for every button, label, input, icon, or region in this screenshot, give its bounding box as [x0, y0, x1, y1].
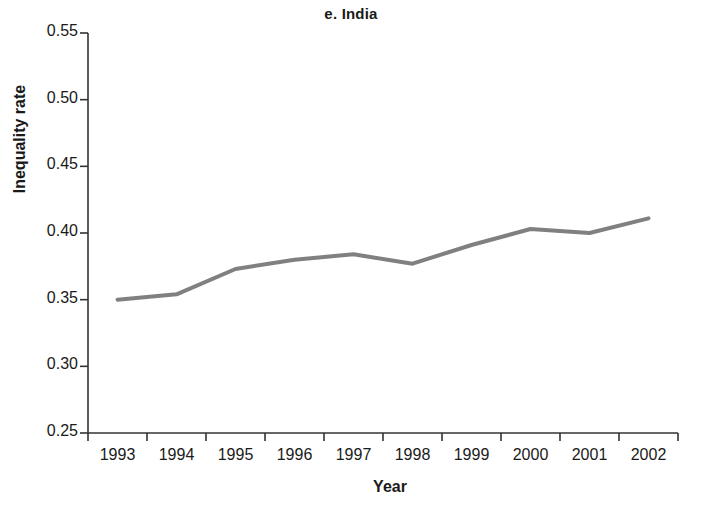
- y-tick-label: 0.35: [14, 289, 78, 307]
- y-tick-label: 0.40: [14, 222, 78, 240]
- y-tick-label: 0.45: [14, 155, 78, 173]
- plot-area: [0, 0, 702, 507]
- tick-marks: [80, 33, 678, 441]
- data-series-line: [118, 218, 649, 299]
- y-tick-label: 0.55: [14, 22, 78, 40]
- y-tick-label: 0.30: [14, 355, 78, 373]
- y-tick-label: 0.50: [14, 89, 78, 107]
- x-tick-label: 2002: [614, 446, 684, 464]
- chart-figure: e. India Inequality rate Year 0.550.500.…: [0, 0, 702, 507]
- y-tick-label: 0.25: [14, 422, 78, 440]
